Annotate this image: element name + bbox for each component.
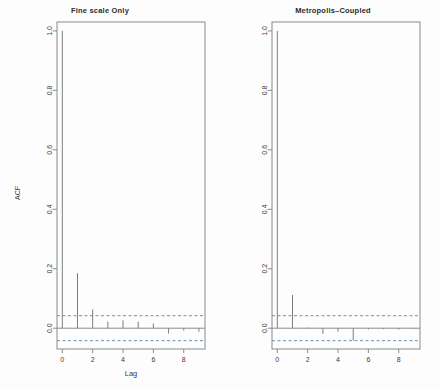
x-tick-label: 6: [151, 356, 155, 363]
x-tick-label: 0: [275, 356, 279, 363]
x-tick-label: 0: [60, 356, 64, 363]
y-tick-label: 1.0: [261, 26, 268, 36]
x-tick-label: 4: [121, 356, 125, 363]
panel-metropolis-coupled: Metropolis–Coupled ACF Lag 0.00.20.40.60…: [215, 0, 440, 389]
x-tick-label: 8: [397, 356, 401, 363]
x-tick-label: 2: [91, 356, 95, 363]
x-tick-label: 2: [306, 356, 310, 363]
plot-area-left: 0.00.20.40.60.81.002468: [0, 0, 220, 389]
y-tick-label: 1.0: [46, 26, 53, 36]
y-tick-label: 0.4: [261, 204, 268, 214]
y-tick-label: 0.2: [46, 264, 53, 274]
y-tick-label: 0.6: [46, 145, 53, 155]
x-tick-label: 6: [366, 356, 370, 363]
y-tick-label: 0.0: [46, 323, 53, 333]
plot-area-right: 0.00.20.40.60.81.002468: [215, 0, 440, 389]
y-tick-label: 0.0: [261, 323, 268, 333]
y-tick-label: 0.8: [46, 85, 53, 95]
x-tick-label: 8: [182, 356, 186, 363]
panel-fine-scale-only: Fine scale Only ACF Lag 0.00.20.40.60.81…: [0, 0, 220, 389]
y-tick-label: 0.2: [261, 264, 268, 274]
y-tick-label: 0.8: [261, 85, 268, 95]
y-tick-label: 0.4: [46, 204, 53, 214]
acf-figure: Fine scale Only ACF Lag 0.00.20.40.60.81…: [0, 0, 440, 389]
y-tick-label: 0.6: [261, 145, 268, 155]
x-tick-label: 4: [336, 356, 340, 363]
